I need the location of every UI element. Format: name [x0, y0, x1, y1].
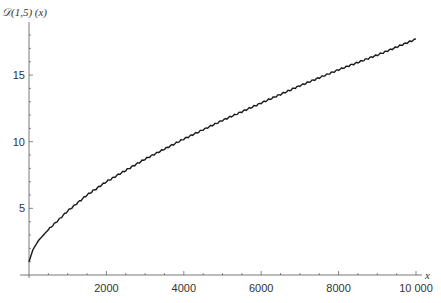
axis-ticks: [29, 35, 416, 275]
y-tick-label: 5: [19, 202, 25, 214]
x-tick-label: 6000: [249, 282, 273, 294]
chart-plot: 200040006000800010 00051015 𝒟(1,5) (x) x: [0, 0, 441, 303]
y-tick-label: 10: [13, 136, 25, 148]
data-line: [29, 39, 416, 262]
y-tick-label: 15: [13, 69, 25, 81]
tick-labels: 200040006000800010 00051015: [13, 69, 433, 294]
x-tick-label: 4000: [172, 282, 196, 294]
y-axis-title: 𝒟(1,5) (x): [2, 6, 47, 19]
x-tick-label: 10 000: [399, 282, 433, 294]
x-axis-title: x: [424, 269, 430, 281]
x-tick-label: 2000: [94, 282, 118, 294]
x-tick-label: 8000: [326, 282, 350, 294]
